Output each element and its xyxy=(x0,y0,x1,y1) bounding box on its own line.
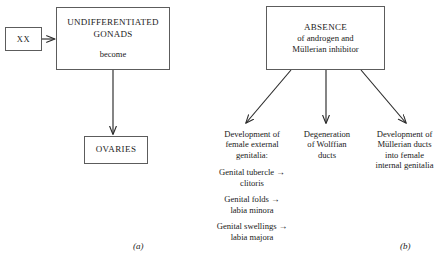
arrow-absence-to-external-genitalia xyxy=(246,70,291,123)
mullerian-line4: internal genitalia xyxy=(364,160,445,170)
panel-label-a: (a) xyxy=(133,241,144,251)
wolffian-line3: ducts xyxy=(292,150,362,160)
genital-tubercle-result: clitoris xyxy=(196,178,308,188)
absence-box-line3: Müllerian inhibitor xyxy=(292,44,358,55)
genital-swellings-source: Genital swellings → xyxy=(196,221,308,231)
outcome-wolffian-degeneration: Degeneration of Wolffian ducts xyxy=(292,129,362,160)
ovaries-label: OVARIES xyxy=(96,144,137,155)
genital-folds-result: labia minora xyxy=(196,205,308,215)
genital-tubercle-source: Genital tubercle → xyxy=(196,167,308,177)
external-genitalia-item-list: Genital tubercle → clitoris Genital fold… xyxy=(196,167,308,242)
panel-label-b: (b) xyxy=(400,241,411,251)
genital-folds-source: Genital folds → xyxy=(196,194,308,204)
ovaries-box: OVARIES xyxy=(84,136,148,164)
figure-container: XX UNDIFFERENTIATED GONADS become OVARIE… xyxy=(0,0,445,261)
outcome-mullerian-development: Development of Müllerian ducts into fema… xyxy=(364,129,445,171)
list-item: Genital folds → labia minora xyxy=(196,194,308,215)
mullerian-line3: into female xyxy=(364,150,445,160)
wolffian-line2: of Wolffian xyxy=(292,139,362,149)
wolffian-line1: Degeneration xyxy=(292,129,362,139)
arrow-absence-to-mullerian xyxy=(361,70,406,123)
gonad-box-title-line2: GONADS xyxy=(93,29,132,40)
genital-swellings-result: labia majora xyxy=(196,232,308,242)
absence-box: ABSENCE of androgen and Müllerian inhibi… xyxy=(266,6,385,70)
karyotype-label: XX xyxy=(17,34,30,45)
mullerian-line2: Müllerian ducts xyxy=(364,139,445,149)
undifferentiated-gonads-box: UNDIFFERENTIATED GONADS become xyxy=(56,7,170,70)
absence-box-title: ABSENCE xyxy=(304,22,347,33)
list-item: Genital tubercle → clitoris xyxy=(196,167,308,188)
absence-box-line2: of androgen and xyxy=(297,33,353,44)
gonad-box-subtitle: become xyxy=(100,49,126,60)
gonad-box-title-line1: UNDIFFERENTIATED xyxy=(67,17,159,28)
karyotype-box-xx: XX xyxy=(5,27,42,51)
list-item: Genital swellings → labia majora xyxy=(196,221,308,242)
mullerian-line1: Development of xyxy=(364,129,445,139)
